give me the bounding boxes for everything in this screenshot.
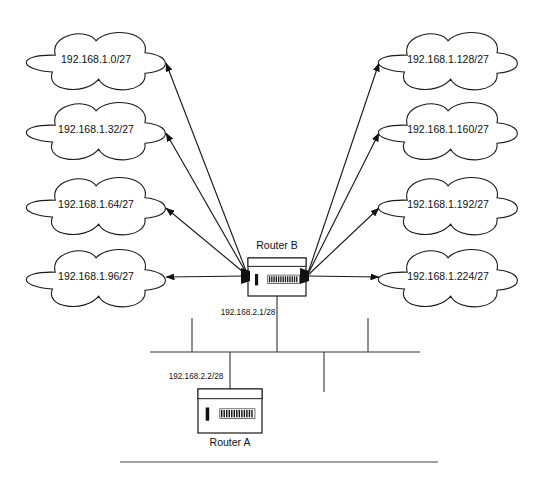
router-port-stripe xyxy=(269,276,270,282)
link-to-192.168.1.160/27[interactable] xyxy=(307,133,379,276)
router-b-connector-right xyxy=(300,268,309,284)
subnet-cloud-right-2[interactable]: 192.168.1.192/27 xyxy=(378,178,517,235)
subnet-cloud-right-0[interactable]: 192.168.1.128/27 xyxy=(378,33,517,90)
router-port-stripe xyxy=(223,410,224,417)
cloud-label: 192.168.1.96/27 xyxy=(58,270,134,282)
router-port-stripe xyxy=(280,276,281,282)
router-led-indicator xyxy=(255,274,258,285)
cloud-label: 192.168.1.224/27 xyxy=(407,270,489,282)
router-port-stripe xyxy=(239,410,240,417)
link-to-192.168.1.32/27[interactable] xyxy=(166,133,248,276)
router-a-interface-label: 192.168.2.2/28 xyxy=(169,372,224,381)
router-port-stripe xyxy=(276,276,277,282)
router-port-stripe xyxy=(221,410,222,417)
router-port-stripe xyxy=(231,410,232,417)
cloud-label: 192.168.1.192/27 xyxy=(407,198,489,210)
router-port-stripe xyxy=(292,276,293,282)
subnet-cloud-left-2[interactable]: 192.168.1.64/27 xyxy=(26,178,165,235)
router-port-stripe xyxy=(226,410,227,417)
subnet-cloud-right-3[interactable]: 192.168.1.224/27 xyxy=(378,250,517,307)
router-port-stripe xyxy=(251,410,252,417)
router-port-stripe xyxy=(236,410,237,417)
subnet-cloud-right-1[interactable]: 192.168.1.160/27 xyxy=(378,103,517,160)
router-port-stripe xyxy=(289,276,290,282)
network-topology-svg: 192.168.1.0/27192.168.1.32/27192.168.1.6… xyxy=(0,0,538,478)
cloud-label: 192.168.1.0/27 xyxy=(61,53,131,65)
cloud-label: 192.168.1.160/27 xyxy=(407,123,489,135)
router-top-bar xyxy=(248,258,306,266)
router-port-stripe xyxy=(271,276,272,282)
subnet-cloud-left-1[interactable]: 192.168.1.32/27 xyxy=(26,103,165,160)
router-port-stripe xyxy=(246,410,247,417)
cloud-label: 192.168.1.128/27 xyxy=(407,53,489,65)
link-to-192.168.1.224/27[interactable] xyxy=(307,276,379,277)
router-layer xyxy=(198,258,309,433)
router-port-stripe xyxy=(287,276,288,282)
router-icon-router-a[interactable] xyxy=(198,389,262,433)
router-name-label: Router A xyxy=(210,436,251,448)
network-diagram-canvas: 192.168.1.0/27192.168.1.32/27192.168.1.6… xyxy=(0,0,538,478)
connector-wedge xyxy=(300,268,309,284)
subnet-cloud-left-0[interactable]: 192.168.1.0/27 xyxy=(26,33,165,90)
router-port-stripe xyxy=(273,276,274,282)
router-led-indicator xyxy=(206,407,210,420)
link-to-192.168.1.96/27[interactable] xyxy=(166,276,248,277)
router-icon-router-b[interactable] xyxy=(248,258,306,296)
router-port-stripe xyxy=(249,410,250,417)
router-name-label: Router B xyxy=(256,239,297,251)
router-top-bar xyxy=(198,389,262,399)
link-to-192.168.1.0/27[interactable] xyxy=(166,63,248,276)
router-b-interface-label: 192.168.2.1/28 xyxy=(221,308,276,317)
router-port-stripe xyxy=(278,276,279,282)
router-port-stripe xyxy=(294,276,295,282)
link-to-192.168.1.128/27[interactable] xyxy=(307,63,379,276)
link-to-192.168.1.192/27[interactable] xyxy=(307,208,379,276)
router-port-stripe xyxy=(283,276,284,282)
link-to-192.168.1.64/27[interactable] xyxy=(166,208,248,276)
router-port-stripe xyxy=(234,410,235,417)
router-port-stripe xyxy=(241,410,242,417)
router-port-stripe xyxy=(229,410,230,417)
router-port-stripe xyxy=(285,276,286,282)
cloud-label: 192.168.1.32/27 xyxy=(58,123,134,135)
router-port-stripe xyxy=(296,276,297,282)
subnet-cloud-left-3[interactable]: 192.168.1.96/27 xyxy=(26,250,165,307)
router-port-stripe xyxy=(244,410,245,417)
cloud-label: 192.168.1.64/27 xyxy=(58,198,134,210)
